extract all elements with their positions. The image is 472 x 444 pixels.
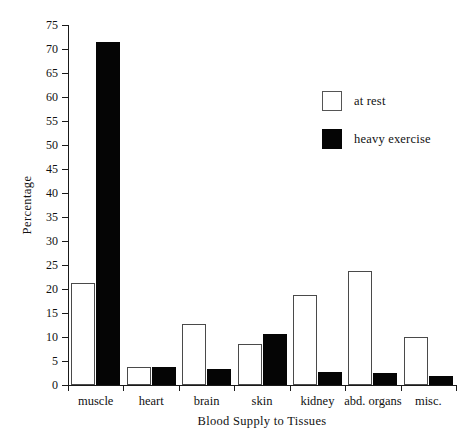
white-square-icon — [322, 91, 342, 111]
y-tick-label: 45 — [30, 163, 58, 175]
bar-misc--heavy-exercise — [429, 376, 453, 385]
y-tick-label: 0 — [30, 379, 58, 391]
y-tick-label-text: 5 — [32, 355, 58, 367]
legend-item-label: at rest — [354, 94, 386, 109]
bar-muscle-at-rest — [71, 283, 95, 385]
chart-legend: at restheavy exercise — [322, 88, 431, 164]
y-tick-label-text: 50 — [32, 139, 58, 151]
bar-heart-at-rest — [127, 367, 151, 385]
y-tick-label-text: 10 — [32, 331, 58, 343]
y-tick-label: 15 — [30, 307, 58, 319]
x-tick-mark — [68, 385, 69, 391]
y-tick-label: 20 — [30, 283, 58, 295]
y-tick-label: 70 — [30, 43, 58, 55]
y-tick-label: 55 — [30, 115, 58, 127]
y-tick-label-text: 25 — [32, 259, 58, 271]
black-square-icon — [322, 129, 342, 149]
y-tick-label-text: 65 — [32, 67, 58, 79]
x-tick-mark — [401, 385, 402, 391]
x-tick-mark — [234, 385, 235, 391]
legend-item: heavy exercise — [322, 126, 431, 152]
bar-skin-at-rest — [238, 344, 262, 385]
y-tick-label: 65 — [30, 67, 58, 79]
legend-item: at rest — [322, 88, 431, 114]
bar-kidney-heavy-exercise — [318, 372, 342, 385]
x-tick-label-misc-: misc. — [387, 393, 470, 409]
y-tick-label-text: 55 — [32, 115, 58, 127]
bar-skin-heavy-exercise — [263, 334, 287, 385]
y-tick-label: 10 — [30, 331, 58, 343]
y-tick-label-text: 70 — [32, 43, 58, 55]
y-tick-label: 35 — [30, 211, 58, 223]
legend-item-label: heavy exercise — [354, 132, 431, 147]
bar-muscle-heavy-exercise — [96, 42, 120, 385]
bar-brain-heavy-exercise — [207, 369, 231, 385]
y-tick-label-text: 60 — [32, 91, 58, 103]
x-tick-mark — [456, 385, 457, 391]
y-tick-label-text: 20 — [32, 283, 58, 295]
bar-heart-heavy-exercise — [152, 367, 176, 385]
x-axis-title: Blood Supply to Tissues — [68, 414, 456, 429]
bar-brain-at-rest — [182, 324, 206, 385]
bar-abd-organs-heavy-exercise — [373, 373, 397, 385]
y-tick-label: 5 — [30, 355, 58, 367]
y-tick-label: 30 — [30, 235, 58, 247]
bar-misc--at-rest — [404, 337, 428, 385]
x-axis-line — [68, 385, 456, 386]
x-tick-mark — [123, 385, 124, 391]
bar-abd-organs-at-rest — [348, 271, 372, 385]
x-tick-mark — [345, 385, 346, 391]
bar-chart-figure: Percentage 05101520253035404550556065707… — [0, 0, 472, 444]
x-tick-mark — [290, 385, 291, 391]
bar-kidney-at-rest — [293, 295, 317, 385]
y-tick-label-text: 40 — [32, 187, 58, 199]
y-tick-label: 40 — [30, 187, 58, 199]
y-tick-label-text: 45 — [32, 163, 58, 175]
y-tick-label: 60 — [30, 91, 58, 103]
y-tick-label-text: 30 — [32, 235, 58, 247]
x-tick-mark — [179, 385, 180, 391]
plot-area — [68, 25, 456, 385]
y-tick-label: 25 — [30, 259, 58, 271]
y-tick-label-text: 15 — [32, 307, 58, 319]
y-tick-label: 50 — [30, 139, 58, 151]
y-tick-label-text: 75 — [32, 19, 58, 31]
y-tick-label: 75 — [30, 19, 58, 31]
y-tick-label-text: 0 — [32, 379, 58, 391]
y-tick-label-text: 35 — [32, 211, 58, 223]
